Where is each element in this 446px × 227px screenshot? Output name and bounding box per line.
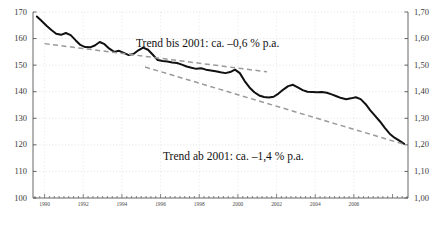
y-axis-left-tick-label: 160 (0, 34, 27, 43)
y-axis-left-tick-label: 170 (0, 8, 27, 17)
y-axis-right-tick-label: 1,50 (414, 61, 429, 70)
x-axis-tick-label: 1990 (32, 202, 58, 207)
x-axis-tick-label: 1998 (186, 202, 212, 207)
x-axis-tick-label: 1996 (148, 202, 174, 207)
y-axis-right-tick-label: 1,60 (414, 34, 429, 43)
data-series-line (37, 17, 404, 144)
chart-plot-svg (0, 0, 446, 227)
y-axis-right-tick-label: 1,10 (414, 167, 429, 176)
trend-annotation-1: Trend bis 2001: ca. –0,6 % p.a. (136, 38, 279, 50)
y-axis-left-tick-label: 150 (0, 61, 27, 70)
y-axis-right-tick-label: 1,30 (414, 114, 429, 123)
y-axis-left-tick-label: 140 (0, 87, 27, 96)
y-axis-left-tick-label: 110 (0, 167, 27, 176)
x-axis-tick-label: 2000 (225, 202, 251, 207)
x-axis-tick-label: 1994 (109, 202, 135, 207)
x-axis-tick-label: 2004 (302, 202, 328, 207)
y-axis-right-tick-label: 1,00 (414, 194, 429, 203)
y-axis-right-tick-label: 1,20 (414, 140, 429, 149)
y-axis-left-tick-label: 100 (0, 194, 27, 203)
chart-container: 1701601501401301201101001,701,601,501,40… (0, 0, 446, 227)
x-axis-tick-label: 2002 (264, 202, 290, 207)
trend-annotation-2: Trend ab 2001: ca. –1,4 % p.a. (163, 151, 304, 163)
y-axis-left-tick-label: 120 (0, 140, 27, 149)
x-axis-tick-label: 2006 (341, 202, 367, 207)
y-axis-right-tick-label: 1,70 (414, 8, 429, 17)
x-axis-tick-label: 1992 (70, 202, 96, 207)
y-axis-left-tick-label: 130 (0, 114, 27, 123)
y-axis-right-tick-label: 1,40 (414, 87, 429, 96)
trend-line-2 (145, 67, 404, 144)
